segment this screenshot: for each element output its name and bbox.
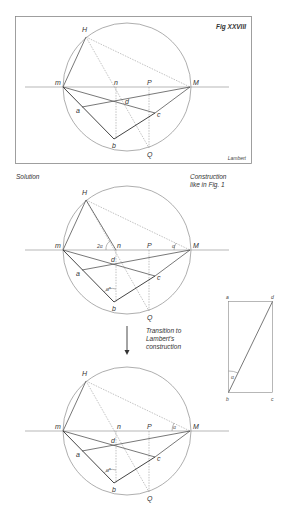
- label-a: a: [76, 451, 80, 458]
- figure-3: H m n P α M d a c α* b Q: [25, 367, 229, 503]
- line-H-Q: [86, 381, 149, 492]
- caption-construction-1: Construction: [190, 173, 227, 180]
- figure-1: Fig XXVIII Lambert H m n P M d a c b Q: [16, 17, 252, 164]
- label-c: c: [271, 396, 274, 402]
- line-m-H: [63, 381, 86, 431]
- line-M-c: [155, 431, 190, 457]
- line-m-b: [63, 431, 114, 483]
- label-b: b: [112, 486, 116, 493]
- label-b: b: [112, 142, 116, 149]
- rectangle-figure: a d b c α: [226, 294, 274, 402]
- figure-2: Solution Construction like in Fig. 1 H m…: [16, 173, 229, 322]
- transition-text-3: construction: [146, 343, 181, 350]
- label-a: a: [76, 270, 80, 277]
- label-n: n: [117, 242, 121, 249]
- line-m-H: [63, 200, 86, 250]
- transition-text-1: Transition to: [146, 327, 182, 334]
- label-Q: Q: [147, 495, 153, 503]
- diagonal-b-d: [229, 302, 273, 393]
- label-c: c: [157, 455, 161, 462]
- caption-construction-2: like in Fig. 1: [190, 181, 225, 189]
- label-M: M: [193, 242, 199, 249]
- diagram-canvas: Fig XXVIII Lambert H m n P M d a c b Q S…: [0, 0, 288, 514]
- label-b: b: [226, 396, 229, 402]
- angle-arc-2a: [106, 241, 110, 250]
- line-M-c: [155, 87, 190, 113]
- label-Q: Q: [147, 314, 153, 322]
- caption-solution: Solution: [16, 173, 40, 180]
- label-b: b: [112, 305, 116, 312]
- line-m-b: [63, 87, 114, 139]
- line-m-H: [63, 37, 86, 87]
- line-H-M: [86, 37, 190, 87]
- line-m-b: [63, 250, 114, 302]
- label-H: H: [82, 189, 88, 196]
- transition-text-2: Lambert's: [146, 335, 175, 342]
- label-d: d: [125, 98, 130, 105]
- figure-credit: Lambert: [228, 155, 247, 161]
- line-M-c: [155, 250, 190, 276]
- line-H-Q: [86, 200, 149, 311]
- label-n: n: [114, 79, 118, 86]
- label-angle: α: [231, 374, 234, 380]
- label-H: H: [82, 370, 88, 377]
- label-c: c: [157, 111, 161, 118]
- arrow-down-icon: [125, 350, 130, 355]
- label-d: d: [111, 256, 116, 263]
- angle-arc-a: [229, 371, 239, 373]
- label-P: P: [147, 79, 152, 86]
- label-d: d: [271, 294, 274, 300]
- label-angle-2a: 2α: [96, 243, 103, 249]
- label-P: P: [147, 423, 152, 430]
- label-n: n: [117, 423, 121, 430]
- label-M: M: [193, 423, 199, 430]
- figure-title: Fig XXVIII: [216, 23, 246, 31]
- label-m: m: [55, 423, 61, 430]
- line-H-Q: [86, 37, 149, 148]
- label-Q: Q: [147, 151, 153, 159]
- label-H: H: [82, 26, 88, 33]
- label-m: m: [55, 242, 61, 249]
- transition: Transition to Lambert's construction: [125, 326, 182, 355]
- label-P: P: [147, 242, 152, 249]
- figure-1-frame: [16, 17, 252, 164]
- label-angle-astar: α*: [106, 286, 112, 292]
- label-angle-a: α: [172, 243, 175, 249]
- label-a: a: [76, 107, 80, 114]
- label-a: a: [226, 294, 229, 300]
- label-angle-astar: α*: [106, 467, 112, 473]
- label-angle-a: α: [173, 424, 176, 430]
- label-m: m: [55, 79, 61, 86]
- label-d: d: [111, 437, 116, 444]
- label-M: M: [193, 79, 199, 86]
- label-c: c: [157, 274, 161, 281]
